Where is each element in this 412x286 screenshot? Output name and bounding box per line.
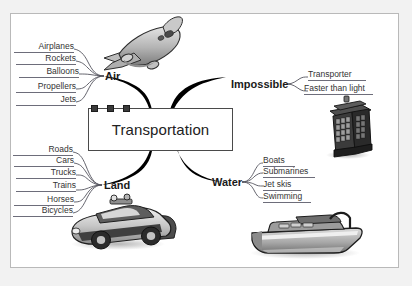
speedboat-clipart (250, 213, 362, 259)
leaf-impossible-transporter[interactable]: Transporter (308, 70, 366, 81)
leaf-land-bicycles[interactable]: Bicycles (13, 206, 73, 217)
leaf-land-cars[interactable]: Cars (14, 156, 74, 167)
resize-handle-left[interactable] (91, 105, 98, 112)
leaf-water-jet-skis[interactable]: Jet skis (263, 180, 301, 191)
police-box-clipart (326, 96, 372, 159)
branch-label-water[interactable]: Water (212, 177, 242, 188)
resize-handle-right[interactable] (123, 105, 130, 112)
diagram-canvas: Transportation Air Land Impossible Water… (0, 0, 412, 286)
branch-label-impossible[interactable]: Impossible (231, 79, 288, 90)
leaf-air-balloons[interactable]: Balloons (19, 67, 79, 78)
center-node[interactable]: Transportation (88, 108, 233, 151)
leaf-land-horses[interactable]: Horses (14, 195, 74, 206)
resize-handle-middle[interactable] (107, 105, 114, 112)
center-node-label: Transportation (112, 121, 210, 138)
branch-label-air[interactable]: Air (105, 71, 120, 82)
leaf-connectors-water (242, 163, 263, 198)
leaf-air-airplanes[interactable]: Airplanes (14, 42, 74, 53)
leaf-air-propellers[interactable]: Propellers (16, 82, 76, 93)
branch-label-land[interactable]: Land (104, 180, 130, 191)
leaf-connectors-land (73, 152, 102, 213)
leaf-land-trucks[interactable]: Trucks (16, 168, 76, 179)
leaf-air-rockets[interactable]: Rockets (16, 54, 76, 65)
leaf-impossible-faster-than-light[interactable]: Faster than light (304, 84, 373, 95)
branch-curve-impossible (170, 77, 226, 111)
airplane-clipart (104, 17, 182, 70)
leaf-water-swimming[interactable]: Swimming (263, 192, 311, 203)
leaf-water-submarines[interactable]: Submarines (263, 167, 315, 178)
leaf-air-jets[interactable]: Jets (16, 95, 76, 106)
leaf-water-boats[interactable]: Boats (263, 156, 295, 167)
police-car-clipart (71, 194, 176, 250)
leaf-land-roads[interactable]: Roads (13, 145, 73, 156)
leaf-land-trains[interactable]: Trains (16, 181, 76, 192)
